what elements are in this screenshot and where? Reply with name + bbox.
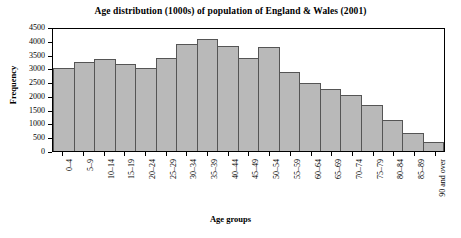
x-tick: 5–9 <box>73 152 94 214</box>
bar <box>53 68 75 151</box>
x-tick-mark <box>104 152 105 156</box>
x-tick-mark <box>290 152 291 156</box>
x-tick-mark <box>435 152 436 156</box>
y-tick-label: 4500 <box>29 24 45 32</box>
bar-series <box>53 29 444 151</box>
y-tick-label: 1500 <box>29 107 45 115</box>
x-tick-mark <box>352 152 353 156</box>
bar <box>361 105 383 151</box>
x-tick: 10–14 <box>93 152 114 214</box>
chart-title: Age distribution (1000s) of population o… <box>0 6 461 16</box>
x-tick: 30–34 <box>176 152 197 214</box>
y-axis-title: Frequency <box>8 50 18 120</box>
x-tick-mark <box>248 152 249 156</box>
y-tick-label: 2500 <box>29 79 45 87</box>
x-tick-mark <box>331 152 332 156</box>
x-tick-mark <box>207 152 208 156</box>
bar <box>423 142 445 151</box>
x-tick: 55–59 <box>280 152 301 214</box>
bar <box>74 62 96 151</box>
plot-area <box>52 28 445 152</box>
bar <box>382 120 404 151</box>
x-tick-mark <box>393 152 394 156</box>
x-tick-mark <box>186 152 187 156</box>
y-tick-label: 3000 <box>29 65 45 73</box>
x-tick-label: 90 and over <box>439 159 447 197</box>
x-axis: 0–45–910–1415–1920–2425–2930–3435–3940–4… <box>52 152 445 214</box>
y-tick-label: 1000 <box>29 120 45 128</box>
bar <box>94 59 116 151</box>
x-tick-mark <box>269 152 270 156</box>
bar <box>217 46 239 151</box>
bar <box>299 83 321 151</box>
x-tick: 15–19 <box>114 152 135 214</box>
x-tick-mark <box>166 152 167 156</box>
x-tick-mark <box>83 152 84 156</box>
y-tick-label: 3500 <box>29 52 45 60</box>
x-tick: 90 and over <box>424 152 445 214</box>
bar <box>135 68 157 152</box>
bar <box>156 58 178 151</box>
x-tick: 50–54 <box>259 152 280 214</box>
x-tick-mark <box>124 152 125 156</box>
bar-chart: Age distribution (1000s) of population o… <box>0 0 461 238</box>
x-axis-title: Age groups <box>0 214 461 224</box>
x-tick: 0–4 <box>52 152 73 214</box>
y-tick-label: 4000 <box>29 38 45 46</box>
x-tick-mark <box>414 152 415 156</box>
x-tick: 65–69 <box>321 152 342 214</box>
x-tick: 60–64 <box>300 152 321 214</box>
bar <box>320 89 342 151</box>
x-tick: 45–49 <box>238 152 259 214</box>
y-tick-label: 0 <box>41 148 45 156</box>
y-tick-label: 2000 <box>29 93 45 101</box>
x-tick: 40–44 <box>217 152 238 214</box>
x-tick: 35–39 <box>197 152 218 214</box>
x-tick-mark <box>145 152 146 156</box>
x-tick: 85–89 <box>404 152 425 214</box>
x-tick: 25–29 <box>155 152 176 214</box>
bar <box>340 95 362 151</box>
bar <box>279 72 301 151</box>
x-tick: 75–79 <box>362 152 383 214</box>
x-tick-mark <box>228 152 229 156</box>
y-axis: Frequency 050010001500200025003000350040… <box>0 28 52 152</box>
bar <box>402 133 424 151</box>
x-tick: 80–84 <box>383 152 404 214</box>
bar <box>115 64 137 151</box>
bar <box>197 39 219 151</box>
x-tick-mark <box>373 152 374 156</box>
x-tick: 20–24 <box>135 152 156 214</box>
x-tick-mark <box>311 152 312 156</box>
bar <box>176 44 198 151</box>
x-tick: 70–74 <box>342 152 363 214</box>
x-tick-mark <box>62 152 63 156</box>
bar <box>238 58 260 151</box>
bar <box>258 47 280 151</box>
y-tick-label: 500 <box>33 134 45 142</box>
